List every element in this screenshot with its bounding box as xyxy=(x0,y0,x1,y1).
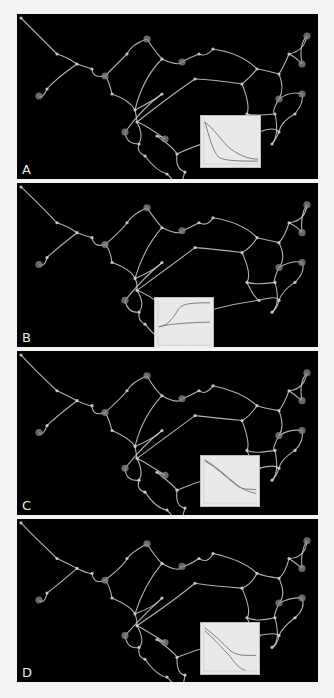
network-edge xyxy=(57,559,77,569)
network-edge xyxy=(127,39,147,54)
network-node xyxy=(55,221,58,224)
network-edge xyxy=(139,647,145,659)
network-panel-c: C xyxy=(17,351,318,515)
inset-curves xyxy=(201,456,259,506)
network-node xyxy=(45,424,48,427)
network-node xyxy=(160,562,163,565)
network-node xyxy=(255,404,258,407)
network-edge xyxy=(57,223,77,233)
network-node xyxy=(197,557,200,560)
network-node xyxy=(45,256,48,259)
network-edge xyxy=(21,523,57,559)
network-node xyxy=(273,112,276,115)
network-node xyxy=(183,170,186,173)
network-edge xyxy=(147,39,162,59)
network-edge xyxy=(279,114,295,132)
network-edge xyxy=(138,480,145,492)
network-edge xyxy=(177,657,185,675)
network-node xyxy=(160,394,163,397)
network-node xyxy=(160,429,163,432)
network-node xyxy=(245,449,248,452)
network-panel-a: A xyxy=(17,14,318,179)
network-node xyxy=(277,409,280,412)
network-node xyxy=(193,414,196,417)
inset-curves xyxy=(201,116,260,167)
network-node xyxy=(133,277,136,280)
network-node xyxy=(175,152,178,155)
network-node xyxy=(143,491,146,494)
network-node xyxy=(287,52,290,55)
network-node xyxy=(125,52,128,55)
hub-node xyxy=(303,32,310,39)
network-node xyxy=(293,281,296,284)
network-node xyxy=(160,57,163,60)
network-edge xyxy=(247,282,259,300)
network-edge xyxy=(137,79,195,122)
network-edge xyxy=(125,263,162,301)
panel-label: A xyxy=(22,163,31,176)
network-node xyxy=(143,658,146,661)
hub-node xyxy=(101,577,108,584)
network-edge xyxy=(242,588,249,618)
network-node xyxy=(19,521,22,524)
network-node xyxy=(143,154,146,157)
inset-curves xyxy=(155,298,213,347)
network-edge xyxy=(137,458,141,480)
hub-node xyxy=(303,537,310,544)
network-node xyxy=(19,16,22,19)
network-node xyxy=(160,226,163,229)
network-node xyxy=(211,384,214,387)
network-edge xyxy=(147,544,162,564)
network-node xyxy=(273,616,276,619)
network-edge xyxy=(272,636,279,648)
hub-node xyxy=(121,465,128,472)
network-node xyxy=(160,596,163,599)
network-edge xyxy=(105,391,127,413)
network-node xyxy=(165,675,168,678)
hub-node xyxy=(303,201,310,208)
hub-node xyxy=(298,90,305,97)
network-node xyxy=(125,389,128,392)
hub-node xyxy=(275,599,282,606)
network-node xyxy=(75,567,78,570)
network-edge xyxy=(135,228,162,279)
network-node xyxy=(197,221,200,224)
network-edge xyxy=(125,94,162,132)
network-edge xyxy=(279,282,295,300)
network-edge xyxy=(145,492,167,510)
network-node xyxy=(211,216,214,219)
network-edge xyxy=(279,450,295,468)
network-node xyxy=(90,404,93,407)
network-node xyxy=(175,656,178,659)
network-edge xyxy=(57,54,77,64)
network-edge xyxy=(195,248,242,253)
network-graph xyxy=(17,14,318,179)
network-edge xyxy=(213,554,257,574)
inset-curve xyxy=(205,122,258,159)
network-node xyxy=(197,52,200,55)
network-edge xyxy=(289,541,307,559)
network-edge xyxy=(127,208,147,223)
network-node xyxy=(133,445,136,448)
network-edge xyxy=(199,386,213,393)
inset-curve xyxy=(205,628,256,656)
network-edge xyxy=(289,373,307,391)
inset-plot xyxy=(154,297,214,347)
network-edge xyxy=(47,233,77,258)
network-edge xyxy=(167,174,179,179)
network-edge xyxy=(199,554,213,561)
network-node xyxy=(287,389,290,392)
network-node xyxy=(75,399,78,402)
network-edge xyxy=(57,391,77,401)
network-edge xyxy=(247,618,275,620)
network-node xyxy=(245,281,248,284)
network-node xyxy=(197,389,200,392)
network-node xyxy=(293,449,296,452)
network-edge xyxy=(137,248,195,291)
network-edge xyxy=(195,416,242,421)
network-edge xyxy=(145,156,167,174)
network-edge xyxy=(242,573,257,588)
network-node xyxy=(135,624,138,627)
network-node xyxy=(240,82,243,85)
network-node xyxy=(155,471,158,474)
